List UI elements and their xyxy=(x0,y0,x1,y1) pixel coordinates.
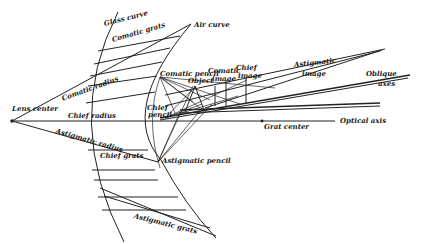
oblique-axes-label: axes xyxy=(378,80,395,87)
air-curve xyxy=(145,24,216,238)
astigmatic-pencil-label: Astigmatic pencil xyxy=(162,157,231,164)
chief-pencil-label-2: pencil xyxy=(148,111,172,118)
astigmatic-image-label-2: image xyxy=(302,70,326,77)
lens-center-label: Lens center xyxy=(12,105,58,112)
chief-grats-label: Chief grats xyxy=(100,152,144,159)
glass-curve xyxy=(91,12,124,242)
object-label: Object xyxy=(188,77,213,84)
air-curve-label: Air curve xyxy=(194,21,230,28)
optical-axis-label: Optical axis xyxy=(340,117,386,124)
optics-diagram: Glass curve Comatic grats Air curve Lens… xyxy=(0,0,422,244)
inner-arc xyxy=(153,77,161,168)
comatic-image-label-2: image xyxy=(212,75,236,82)
grat-center-label: Grat center xyxy=(264,123,309,130)
grat-center-dot xyxy=(261,120,264,123)
oblique-label: Oblique xyxy=(366,70,397,77)
chief-image-label-2: image xyxy=(238,72,262,79)
chief-image-label-1: Chief xyxy=(236,64,257,71)
chief-radius-label: Chief radius xyxy=(68,112,116,119)
